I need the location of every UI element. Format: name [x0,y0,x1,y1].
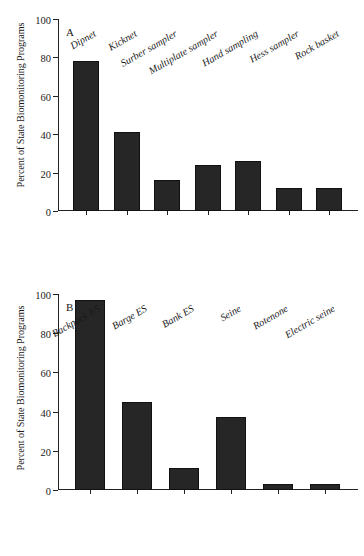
bar [122,402,152,490]
x-tick-mark [231,490,232,494]
y-tick-label: 0 [46,491,51,492]
y-tick-label: 40 [41,412,52,413]
y-tick-mark [53,19,58,20]
y-tick-label: 40 [41,135,52,136]
y-tick-mark [53,451,58,452]
y-tick-label: 80 [41,58,52,59]
x-tick-label: Electric seine [283,303,337,340]
y-tick-mark [53,211,58,212]
x-tick-label: Seine [218,303,243,324]
y-tick-mark [53,134,58,135]
y-axis-title-a: Percent of State Biomonitoring Programs [14,5,28,205]
figure-two-panel-bar-charts: Percent of State Biomonitoring Programs … [0,0,364,556]
x-tick-mark [278,490,279,494]
x-tick-label: Rock basket [293,28,341,62]
y-tick-mark [53,57,58,58]
x-tick-mark [90,490,91,494]
x-tick-label: Rotenone [251,303,290,332]
y-tick-label: 0 [46,212,51,213]
bar [195,165,221,211]
y-tick-label: 60 [41,96,52,97]
bar [216,417,246,490]
plot-area-b: 020406080100 Backpack ESBarge ESBank ESS… [58,294,350,490]
plot-area-a: 020406080100 DipnetKicknetSurber sampler… [58,19,350,211]
x-tick-mark [127,211,128,215]
bar [316,188,342,211]
bar [75,300,105,490]
x-tick-label: Bank ES [160,303,196,330]
y-axis-title-b: Percent of State Biomonitoring Programs [14,288,28,488]
x-tick-mark [329,211,330,215]
x-tick-mark [137,490,138,494]
y-tick-mark [53,294,58,295]
x-tick-label: Barge ES [110,303,149,332]
bar [235,161,261,211]
y-tick-label: 20 [41,173,52,174]
x-tick-label: Kicknet [106,28,138,53]
y-axis-line-a [58,19,59,211]
y-tick-label: 20 [41,451,52,452]
chart-panel-a: Percent of State Biomonitoring Programs … [0,0,364,272]
y-tick-mark [53,412,58,413]
x-tick-mark [289,211,290,215]
x-tick-mark [86,211,87,215]
bar [73,61,99,211]
bar [169,468,199,490]
x-tick-label: Dipnet [68,28,98,51]
x-tick-mark [208,211,209,215]
y-tick-label: 80 [41,334,52,335]
y-tick-mark [53,96,58,97]
y-tick-label: 100 [35,295,51,296]
bar [114,132,140,211]
y-tick-label: 60 [41,373,52,374]
chart-panel-b: Percent of State Biomonitoring Programs … [0,276,364,556]
y-tick-mark [53,372,58,373]
x-tick-mark [184,490,185,494]
bar [154,180,180,211]
bar [276,188,302,211]
y-tick-mark [53,173,58,174]
x-tick-mark [325,490,326,494]
x-tick-mark [248,211,249,215]
x-tick-mark [167,211,168,215]
y-tick-label: 100 [35,20,51,21]
y-tick-mark [53,490,58,491]
x-tick-label: Multiplate sampler [146,28,219,76]
